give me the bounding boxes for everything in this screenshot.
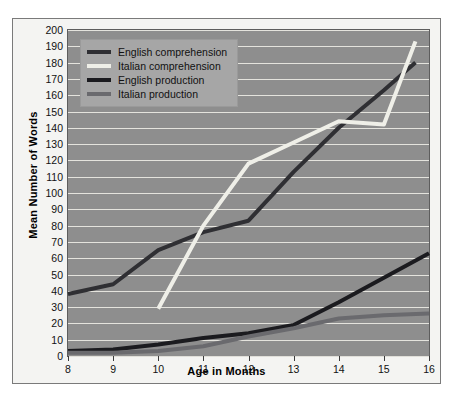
y-tick-label: 100 xyxy=(45,187,63,199)
y-tick-label: 150 xyxy=(45,106,63,118)
legend-swatch xyxy=(87,64,111,68)
legend-swatch xyxy=(87,50,111,54)
x-tick-mark xyxy=(113,356,114,361)
x-tick-mark xyxy=(203,356,204,361)
x-tick-label: 13 xyxy=(288,363,300,375)
legend-label: English production xyxy=(118,74,204,86)
y-tick-label: 140 xyxy=(45,122,63,134)
legend-label: Italian production xyxy=(118,88,198,100)
y-tick-label: 60 xyxy=(51,252,63,264)
y-tick-label: 170 xyxy=(45,73,63,85)
x-tick-label: 11 xyxy=(198,363,209,375)
x-tick-label: 9 xyxy=(110,363,116,375)
y-axis-title: Mean Number of Words xyxy=(27,65,39,285)
x-tick-mark xyxy=(68,356,69,361)
legend-swatch xyxy=(87,78,111,82)
x-tick-mark xyxy=(384,356,385,361)
x-tick-label: 15 xyxy=(378,363,390,375)
x-tick-mark xyxy=(429,356,430,361)
x-tick-label: 14 xyxy=(333,363,345,375)
x-tick-label: 12 xyxy=(243,363,255,375)
y-tick-label: 20 xyxy=(51,317,63,329)
y-tick-label: 70 xyxy=(51,236,63,248)
x-tick-mark xyxy=(158,356,159,361)
legend-label: English comprehension xyxy=(118,46,227,58)
legend-item: Italian comprehension xyxy=(87,59,227,73)
legend-item: Italian production xyxy=(87,87,227,101)
legend-item: English comprehension xyxy=(87,45,227,59)
y-tick-label: 80 xyxy=(51,220,63,232)
y-tick-label: 120 xyxy=(45,154,63,166)
legend-item: English production xyxy=(87,73,227,87)
plot-area: 0102030405060708090100110120130140150160… xyxy=(67,29,430,357)
y-tick-label: 130 xyxy=(45,138,63,150)
x-axis-title: Age in Months xyxy=(13,365,440,377)
x-tick-label: 10 xyxy=(152,363,164,375)
y-tick-label: 40 xyxy=(51,285,63,297)
y-tick-label: 110 xyxy=(46,171,63,183)
y-tick-label: 180 xyxy=(45,57,63,69)
legend-swatch xyxy=(87,92,111,96)
y-tick-label: 90 xyxy=(51,203,63,215)
x-tick-mark xyxy=(339,356,340,361)
y-tick-label: 190 xyxy=(45,40,63,52)
y-tick-label: 10 xyxy=(51,334,63,346)
y-tick-label: 30 xyxy=(51,301,63,313)
chart-legend: English comprehensionItalian comprehensi… xyxy=(80,39,238,107)
y-tick-label: 0 xyxy=(57,350,63,362)
legend-label: Italian comprehension xyxy=(118,60,221,72)
x-tick-mark xyxy=(294,356,295,361)
x-tick-mark xyxy=(249,356,250,361)
y-tick-label: 50 xyxy=(51,269,63,281)
x-tick-label: 8 xyxy=(65,363,71,375)
chart-figure: Mean Number of Words Age in Months 01020… xyxy=(12,18,441,384)
y-tick-label: 160 xyxy=(45,89,63,101)
x-tick-label: 16 xyxy=(423,363,435,375)
y-tick-label: 200 xyxy=(45,24,63,36)
